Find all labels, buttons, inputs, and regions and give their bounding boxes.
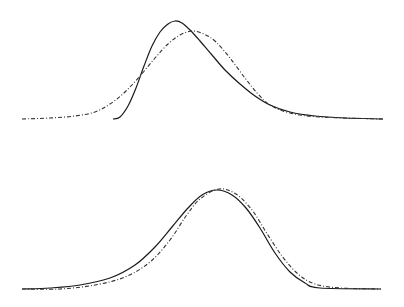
bottom-dashdot-curve bbox=[22, 189, 381, 289]
bottom-panel bbox=[22, 189, 381, 289]
top-panel bbox=[22, 21, 383, 119]
bottom-solid-curve bbox=[22, 190, 381, 289]
top-solid-curve bbox=[113, 21, 383, 119]
density-comparison-chart bbox=[0, 0, 404, 307]
